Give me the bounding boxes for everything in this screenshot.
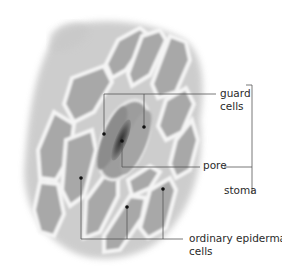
label-guard-cells: guard cells — [220, 87, 251, 113]
label-ordinary-epidermal-cells: ordinary epidermal cells — [189, 232, 282, 258]
label-guard-cells-line2: cells — [220, 100, 251, 113]
epidermal-dot-3 — [161, 187, 165, 191]
guard-cell-dot-left — [102, 132, 106, 136]
epidermal-dot-2 — [125, 205, 129, 209]
label-epidermal-line2: cells — [189, 245, 282, 258]
epidermal-dot-1 — [79, 176, 83, 180]
label-stoma: stoma — [224, 184, 257, 197]
pore-dot — [120, 139, 124, 143]
label-guard-cells-line1: guard — [220, 87, 251, 100]
guard-cell-dot-right — [142, 125, 146, 129]
label-pore: pore — [203, 159, 227, 172]
label-epidermal-line1: ordinary epidermal — [189, 232, 282, 245]
